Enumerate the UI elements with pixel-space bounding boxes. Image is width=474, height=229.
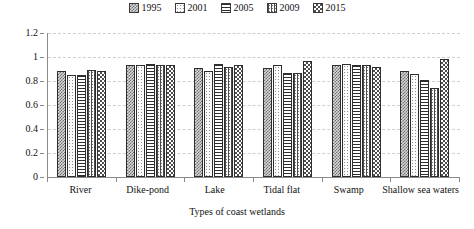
legend-swatch-icon-1995 xyxy=(129,3,139,13)
category-ticks xyxy=(47,177,459,182)
bar-swamp-2009[interactable] xyxy=(362,65,371,177)
bar-tidal-flat-2015[interactable] xyxy=(303,61,312,177)
category-tick-mark xyxy=(459,177,460,182)
legend-item-1995[interactable]: 1995 xyxy=(129,3,162,13)
legend-label: 2015 xyxy=(326,3,346,13)
bar-shallow-sea-waters-2005[interactable] xyxy=(420,80,429,177)
bar-river-2001[interactable] xyxy=(67,75,76,177)
bar-swamp-2001[interactable] xyxy=(342,64,351,177)
category-label-river: River xyxy=(47,184,114,195)
legend-item-2001[interactable]: 2001 xyxy=(175,3,208,13)
bar-tidal-flat-2001[interactable] xyxy=(273,65,282,177)
bar-group-river xyxy=(47,33,116,177)
bar-group-swamp xyxy=(322,33,391,177)
bar-lake-1995[interactable] xyxy=(194,68,203,177)
category-tick-mark xyxy=(322,177,323,182)
bar-river-1995[interactable] xyxy=(57,71,66,177)
category-label-swamp: Swamp xyxy=(315,184,382,195)
legend-swatch-icon-2015 xyxy=(313,3,323,13)
y-tick-label: 0.2 xyxy=(26,148,39,158)
y-tick-label: 1.2 xyxy=(26,28,39,38)
category-tick-mark xyxy=(47,177,48,182)
category-tick-mark xyxy=(253,177,254,182)
bar-lake-2001[interactable] xyxy=(204,71,213,177)
bar-lake-2009[interactable] xyxy=(224,67,233,177)
bar-swamp-2005[interactable] xyxy=(352,65,361,177)
bar-tidal-flat-2005[interactable] xyxy=(283,73,292,177)
chart-figure: 19952001200520092015 00.20.40.60.811.2 R… xyxy=(0,0,474,229)
y-axis: 00.20.40.60.811.2 xyxy=(0,33,44,177)
bar-dike-pond-2001[interactable] xyxy=(136,65,145,177)
bar-group-dike-pond xyxy=(116,33,185,177)
bar-swamp-2015[interactable] xyxy=(372,67,381,177)
category-tick-mark xyxy=(116,177,117,182)
bar-group-tidal-flat xyxy=(253,33,322,177)
bar-lake-2005[interactable] xyxy=(214,64,223,177)
bar-dike-pond-2009[interactable] xyxy=(156,65,165,177)
category-label-tidal-flat: Tidal flat xyxy=(248,184,315,195)
bar-lake-2015[interactable] xyxy=(234,65,243,177)
legend-item-2009[interactable]: 2009 xyxy=(267,3,300,13)
bar-river-2005[interactable] xyxy=(77,75,86,177)
y-tick-label: 0.6 xyxy=(26,100,39,110)
bar-shallow-sea-waters-2001[interactable] xyxy=(410,74,419,177)
category-labels: RiverDike-pondLakeTidal flatSwampShallow… xyxy=(47,184,459,195)
bar-group-lake xyxy=(184,33,253,177)
bar-shallow-sea-waters-2009[interactable] xyxy=(430,88,439,177)
y-tick-mark xyxy=(40,33,44,34)
bar-groups xyxy=(47,33,459,177)
bar-dike-pond-2015[interactable] xyxy=(166,65,175,177)
category-tick-mark xyxy=(390,177,391,182)
bar-tidal-flat-1995[interactable] xyxy=(263,68,272,177)
legend-label: 1995 xyxy=(142,3,162,13)
bar-shallow-sea-waters-2015[interactable] xyxy=(440,59,449,177)
category-label-dike-pond: Dike-pond xyxy=(114,184,181,195)
legend-label: 2005 xyxy=(234,3,254,13)
chart-legend: 19952001200520092015 xyxy=(0,3,474,13)
legend-label: 2009 xyxy=(280,3,300,13)
legend-swatch-icon-2001 xyxy=(175,3,185,13)
legend-label: 2001 xyxy=(188,3,208,13)
bar-river-2009[interactable] xyxy=(87,70,96,177)
legend-swatch-icon-2005 xyxy=(221,3,231,13)
y-tick-label: 1 xyxy=(33,52,38,62)
category-tick-mark xyxy=(184,177,185,182)
y-tick-mark xyxy=(40,57,44,58)
y-tick-label: 0.4 xyxy=(26,124,39,134)
bar-swamp-1995[interactable] xyxy=(332,65,341,177)
y-tick-label: 0 xyxy=(33,172,38,182)
category-label-shallow-sea-waters: Shallow sea waters xyxy=(382,184,459,195)
y-tick-mark xyxy=(40,177,44,178)
bar-group-shallow-sea-waters xyxy=(390,33,459,177)
y-tick-mark xyxy=(40,81,44,82)
bar-dike-pond-1995[interactable] xyxy=(126,65,135,177)
bar-tidal-flat-2009[interactable] xyxy=(293,73,302,177)
bar-dike-pond-2005[interactable] xyxy=(146,64,155,177)
legend-item-2015[interactable]: 2015 xyxy=(313,3,346,13)
legend-swatch-icon-2009 xyxy=(267,3,277,13)
bar-shallow-sea-waters-1995[interactable] xyxy=(400,71,409,177)
y-tick-mark xyxy=(40,153,44,154)
bar-river-2015[interactable] xyxy=(97,71,106,177)
category-label-lake: Lake xyxy=(181,184,248,195)
legend-item-2005[interactable]: 2005 xyxy=(221,3,254,13)
y-tick-mark xyxy=(40,105,44,106)
y-tick-label: 0.8 xyxy=(26,76,39,86)
x-axis-title: Types of coast wetlands xyxy=(0,206,474,217)
y-tick-mark xyxy=(40,129,44,130)
